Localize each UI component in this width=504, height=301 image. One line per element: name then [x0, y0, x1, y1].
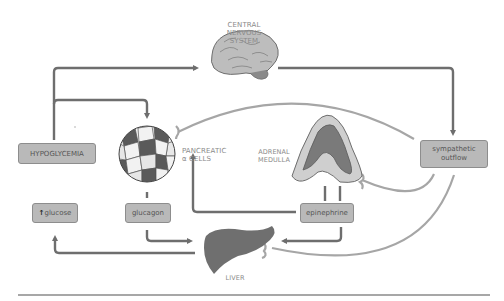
pancreas-label-line-2: α CELLS — [182, 155, 211, 163]
nerve-sympathetic-to-adrenal — [362, 174, 434, 191]
glucose-label: glucose — [44, 209, 71, 217]
adrenal-gland-icon — [292, 115, 362, 182]
pancreas-label: PANCREATIC α CELLS — [182, 147, 232, 163]
cns-label-line-3: SYSTEM — [230, 37, 259, 45]
hypoglycemia-label: HYPOGLYCEMIA — [30, 150, 84, 158]
diagram-canvas: CENTRAL NERVOUS SYSTEM HYPOGLYCEMIA PANC… — [0, 0, 504, 301]
sympathetic-outflow-box: sympathetic outflow — [420, 140, 488, 168]
arrow-glucagon-to-liver — [147, 230, 190, 241]
glucagon-box: glucagon — [125, 203, 171, 223]
cns-label: CENTRAL NERVOUS SYSTEM — [224, 21, 264, 45]
artifact-dot — [74, 126, 76, 128]
liver-label: LIVER — [220, 274, 250, 282]
hypoglycemia-box: HYPOGLYCEMIA — [18, 143, 96, 164]
adrenal-label-line-2: MEDULLA — [258, 156, 290, 164]
epinephrine-label: epinephrine — [306, 209, 348, 217]
pancreas-label-line-1: PANCREATIC — [182, 147, 226, 155]
glucose-box: ↑glucose — [32, 203, 78, 223]
arrow-cns-to-sympathetic — [278, 68, 453, 133]
nerve-ending-pancreas — [176, 126, 179, 139]
arrow-hypoglycemia-to-cns — [54, 68, 196, 140]
nerve-sympathetic-to-pancreas — [178, 104, 414, 139]
cns-label-line-2: NERVOUS — [227, 29, 262, 37]
adrenal-label-line-1: ADRENAL — [258, 148, 290, 156]
islet-cells-icon — [112, 126, 180, 184]
arrow-hypoglycemia-to-pancreas — [54, 100, 147, 116]
arrow-epinephrine-to-pancreas — [193, 156, 296, 212]
sympathetic-label-line-1: sympathetic — [432, 145, 475, 154]
sympathetic-label-line-2: outflow — [441, 154, 467, 163]
arrow-epinephrine-to-liver — [284, 227, 341, 241]
glucagon-label: glucagon — [132, 209, 164, 217]
adrenal-label: ADRENAL MEDULLA — [254, 148, 294, 164]
cns-label-line-1: CENTRAL — [228, 21, 261, 29]
epinephrine-box: epinephrine — [300, 203, 354, 223]
